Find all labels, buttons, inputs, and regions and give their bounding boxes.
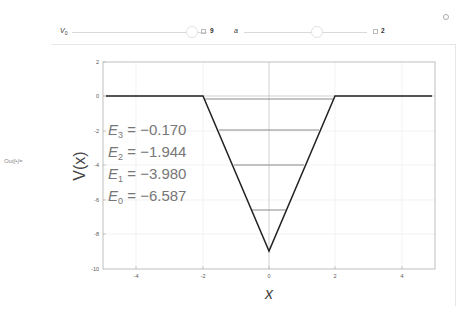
energy-labels: E3 = −0.170 E2 = −1.944 E1 = −3.980 E0 =… [108,121,186,206]
energy-label-e3: E3 = −0.170 [108,121,186,140]
x-tick: 4 [400,273,403,279]
x-tick: -4 [134,273,139,279]
x-axis-title: x [264,285,274,302]
energy-label-e2: E2 = −1.944 [108,143,186,162]
x-tick: 0 [267,273,270,279]
y-tick: 0 [96,93,99,99]
x-tick-labels: -4 -2 0 2 4 [134,273,404,279]
energy-label-e1: E1 = −3.980 [108,165,186,184]
y-tick: 2 [96,59,99,65]
y-tick-labels: 2 0 -2 -4 -6 -8 -10 [91,59,99,272]
y-tick: -10 [91,266,99,272]
y-tick: -4 [94,162,99,168]
potential-well-plot: 2 0 -2 -4 -6 -8 -10 -4 -2 0 2 4 E3 = −0.… [0,0,470,323]
y-axis-title: V(x) [71,151,88,180]
x-tick: -2 [201,273,206,279]
energy-label-e0: E0 = −6.587 [108,187,186,206]
y-tick: -2 [94,128,99,134]
x-tick: 2 [333,273,336,279]
y-tick: -6 [94,197,99,203]
y-tick: -8 [94,231,99,237]
